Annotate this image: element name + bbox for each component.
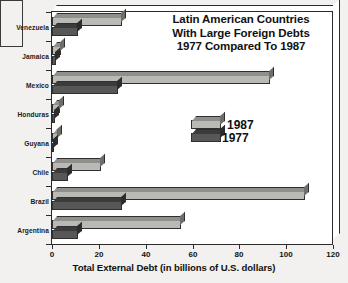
- legend-swatch-1977: [191, 133, 221, 142]
- chart-title-line-1: Latin American Countries: [155, 13, 327, 27]
- bar-top-face: [53, 187, 308, 192]
- bar-argentina-1977: [52, 230, 78, 239]
- x-axis-tick: [146, 245, 147, 249]
- x-axis-tick-label: 100: [279, 250, 292, 259]
- bar-chile-1977: [52, 172, 68, 181]
- x-axis-tick: [239, 245, 240, 249]
- bar-top-face: [53, 81, 121, 86]
- bar-guyana-1977: [52, 143, 54, 152]
- chart-title-line-3: 1977 Compared To 1987: [155, 40, 327, 54]
- y-axis-tick: [46, 99, 51, 100]
- y-axis-tick: [46, 128, 51, 129]
- category-label-chile: Chile: [1, 168, 49, 175]
- y-axis-tick: [46, 186, 51, 187]
- bar-honduras-1977: [52, 114, 55, 123]
- x-axis-tick: [333, 245, 334, 249]
- legend-swatch-1987: [191, 120, 221, 129]
- x-axis-tick-label: 40: [142, 250, 151, 259]
- category-label-honduras: Honduras: [1, 110, 49, 117]
- x-axis-tick-label: 120: [326, 250, 339, 259]
- bar-top-face: [53, 71, 273, 76]
- bar-mexico-1977: [52, 85, 118, 94]
- bar-top-face: [53, 216, 184, 221]
- chart-title-line-2: With Large Foreign Debts: [155, 27, 327, 41]
- bar-jamaica-1977: [52, 56, 56, 65]
- category-label-jamaica: Jamaica: [1, 52, 49, 59]
- x-axis-tick-label: 60: [189, 250, 198, 259]
- x-axis-tick-label: 0: [50, 250, 54, 259]
- category-label-brazil: Brazil: [1, 197, 49, 204]
- y-axis-tick: [46, 70, 51, 71]
- category-label-argentina: Argentina: [1, 226, 49, 233]
- x-axis-tick-label: 80: [235, 250, 244, 259]
- x-axis-tick: [286, 245, 287, 249]
- y-axis-tick: [46, 244, 51, 245]
- x-axis-title: Total External Debt (in billions of U.S.…: [0, 262, 348, 273]
- bar-brazil-1977: [52, 201, 122, 210]
- chart-title: Latin American Countries With Large Fore…: [155, 13, 327, 54]
- y-axis-tick: [46, 41, 51, 42]
- x-axis-tick: [99, 245, 100, 249]
- category-label-mexico: Mexico: [1, 81, 49, 88]
- y-axis-tick: [46, 12, 51, 13]
- y-axis-tick: [46, 215, 51, 216]
- x-axis-tick: [52, 245, 53, 249]
- legend-label-1987: 1987: [227, 118, 254, 132]
- category-label-venezuela: Venezuela: [1, 23, 49, 30]
- bar-top-face: [53, 197, 125, 202]
- plot-frame-3d-right-edge: [333, 0, 340, 239]
- legend-label-1977: 1977: [222, 131, 249, 145]
- category-label-guyana: Guyana: [1, 139, 49, 146]
- bar-top-face: [53, 13, 125, 18]
- x-axis-tick: [193, 245, 194, 249]
- x-axis-tick-label: 20: [95, 250, 104, 259]
- bar-venezuela-1977: [52, 27, 78, 36]
- y-axis-tick: [46, 157, 51, 158]
- bar-top-face: [53, 158, 104, 163]
